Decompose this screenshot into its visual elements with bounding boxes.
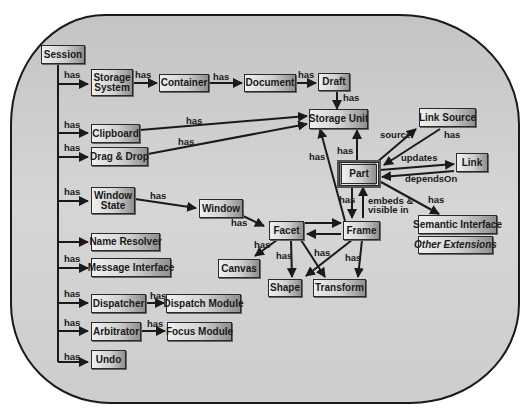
edge-label-depends-on: dependsOn [405, 174, 457, 184]
node-arbitrator[interactable]: Arbitrator [91, 322, 141, 341]
edge-label-has: has [64, 254, 80, 264]
node-facet[interactable]: Facet [269, 221, 304, 240]
node-storage-system[interactable]: Storage System [91, 69, 133, 96]
node-container[interactable]: Container [159, 74, 209, 92]
node-dispatch-module[interactable]: Dispatch Module [166, 294, 241, 313]
node-transform[interactable]: Transform [313, 279, 366, 297]
edge-label-has: has [64, 187, 80, 197]
edge-label-has: has [147, 319, 163, 329]
node-clipboard[interactable]: Clipboard [91, 124, 140, 143]
edge-label-has: has [150, 291, 166, 301]
node-name-resolver[interactable]: Name Resolver [91, 233, 160, 251]
edge-label-source: source [380, 130, 411, 140]
edge-label-has: has [337, 146, 353, 156]
edge-label-has: has [444, 130, 460, 140]
edge-label-has: has [213, 72, 229, 82]
node-semantic-interface[interactable]: Semantic Interface [418, 215, 497, 234]
node-link-source[interactable]: Link Source [419, 108, 476, 127]
node-other-extensions[interactable]: Other Extensions [418, 236, 493, 254]
node-storage-unit[interactable]: Storage Unit [309, 109, 368, 129]
edge-label-has: has [64, 289, 80, 299]
node-undo[interactable]: Undo [91, 350, 126, 369]
node-document[interactable]: Document [244, 74, 296, 92]
edge-label-has: has [64, 120, 80, 130]
node-canvas[interactable]: Canvas [218, 259, 260, 278]
node-window-state[interactable]: Window State [91, 187, 135, 214]
edge-label-has: has [231, 218, 247, 228]
edge-label-has: has [64, 318, 80, 328]
edge-label-has: has [343, 93, 359, 103]
node-frame[interactable]: Frame [343, 221, 380, 240]
edge-label-has: has [428, 195, 444, 205]
edge-label-updates: updates [401, 153, 437, 163]
edge-label-has: has [64, 70, 80, 80]
node-draft[interactable]: Draft [318, 73, 350, 91]
edge-label-has: has [178, 137, 194, 147]
node-session[interactable]: Session [41, 45, 85, 64]
edge-label-has: has [276, 251, 292, 261]
edge-label-has: has [254, 240, 270, 250]
edge-label-has: has [309, 152, 325, 162]
node-shape[interactable]: Shape [268, 279, 302, 297]
edge-label-has: has [64, 143, 80, 153]
edge-label-has: has [339, 195, 355, 205]
edge-label-has: has [298, 70, 314, 80]
node-message-interface[interactable]: Message Interface [91, 258, 171, 277]
node-focus-module[interactable]: Focus Module [167, 322, 232, 341]
node-drag-drop[interactable]: Drag & Drop [91, 147, 148, 166]
node-link[interactable]: Link [456, 153, 488, 172]
edge-label-visible-in: visible in [368, 205, 409, 215]
edge-label-has: has [150, 191, 166, 201]
edge-label-has: has [135, 70, 151, 80]
node-window[interactable]: Window [199, 199, 243, 218]
edge-label-has: has [345, 253, 361, 263]
node-dispatcher[interactable]: Dispatcher [91, 294, 146, 313]
edge-label-has: has [314, 248, 330, 258]
edge-label-has: has [64, 352, 80, 362]
edge-label-has: has [186, 116, 202, 126]
node-part[interactable]: Part [339, 162, 379, 186]
